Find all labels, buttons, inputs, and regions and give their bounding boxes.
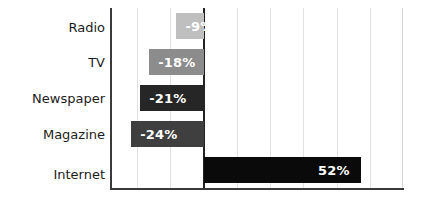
y-axis-label-tv: TV [2,56,105,69]
gridline [137,8,138,188]
bar-value-label-newspaper: -21% [140,92,186,105]
y-axis-label-internet: Internet [2,168,105,181]
y-axis-label-magazine: Magazine [2,128,105,141]
x-axis-line [110,188,404,190]
y-axis-label-newspaper: Newspaper [2,92,105,105]
bar-internet[interactable]: 52% [204,157,361,183]
bar-value-label-magazine: -24% [131,128,177,141]
bar-newspaper[interactable]: -21% [140,85,203,111]
bar-tv[interactable]: -18% [149,49,203,75]
y-axis-labels: Radio TV Newspaper Magazine Internet [0,0,105,203]
bar-value-label-internet: 52% [318,164,361,177]
y-axis-label-radio: Radio [2,21,105,34]
bar-value-label-radio: -9% [176,20,213,33]
bar-radio[interactable]: -9% [176,13,203,39]
bar-value-label-tv: -18% [149,56,195,69]
gridline [370,8,371,188]
bar-chart: Radio TV Newspaper Magazine Internet -9%… [0,0,422,203]
bar-magazine[interactable]: -24% [131,121,203,147]
